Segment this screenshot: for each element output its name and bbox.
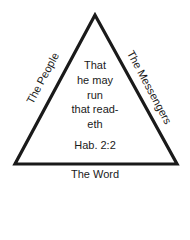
quote-line: eth bbox=[55, 117, 135, 132]
quote-line: run bbox=[55, 88, 135, 103]
scripture-reference: Hab. 2:2 bbox=[55, 139, 135, 151]
quote-line: he may bbox=[55, 73, 135, 88]
center-quote: That he may run that read- eth bbox=[55, 58, 135, 132]
bottom-side-label: The Word bbox=[45, 168, 145, 180]
quote-line: That bbox=[55, 58, 135, 73]
quote-line: that read- bbox=[55, 102, 135, 117]
